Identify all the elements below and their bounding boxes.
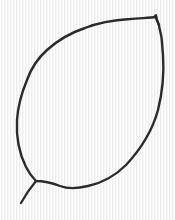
leaf-outline bbox=[17, 17, 164, 188]
sketch-canvas: Hand-drawn outline sketch of a leaf with… bbox=[0, 0, 175, 220]
leaf-tip bbox=[154, 15, 159, 26]
leaf-drawing bbox=[0, 0, 175, 220]
leaf-stem bbox=[21, 181, 36, 203]
